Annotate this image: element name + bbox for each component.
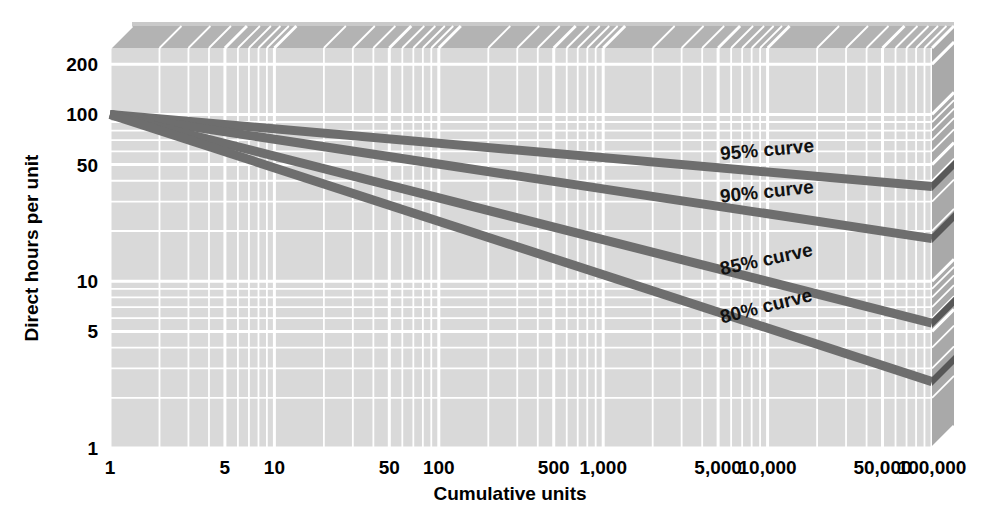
x-tick-label: 500 — [538, 457, 570, 478]
y-tick-label: 10 — [77, 271, 98, 292]
y-tick-labels: 151050100200 — [66, 54, 98, 459]
chart-figure: 95% curve90% curve85% curve80% curve 151… — [0, 0, 1002, 520]
x-tick-labels: 1510501005001,0005,00010,00050,000100,00… — [105, 457, 967, 478]
x-tick-label: 5 — [220, 457, 231, 478]
x-tick-label: 10,000 — [739, 457, 797, 478]
y-tick-label: 5 — [87, 321, 98, 342]
x-axis-title: Cumulative units — [433, 483, 586, 504]
x-tick-label: 50 — [379, 457, 400, 478]
x-tick-label: 100 — [423, 457, 455, 478]
y-tick-label: 1 — [87, 438, 98, 459]
y-tick-label: 100 — [66, 104, 98, 125]
y-axis-title: Direct hours per unit — [21, 154, 42, 342]
y-tick-label: 200 — [66, 54, 98, 75]
y-tick-label: 50 — [77, 155, 98, 176]
x-tick-label: 1,000 — [579, 457, 627, 478]
chart-top-highlight — [132, 22, 954, 26]
x-tick-label: 100,000 — [898, 457, 967, 478]
x-tick-label: 5,000 — [694, 457, 742, 478]
learning-curve-chart: 95% curve90% curve85% curve80% curve 151… — [0, 0, 1002, 520]
x-tick-label: 10 — [264, 457, 285, 478]
x-tick-label: 1 — [105, 457, 116, 478]
